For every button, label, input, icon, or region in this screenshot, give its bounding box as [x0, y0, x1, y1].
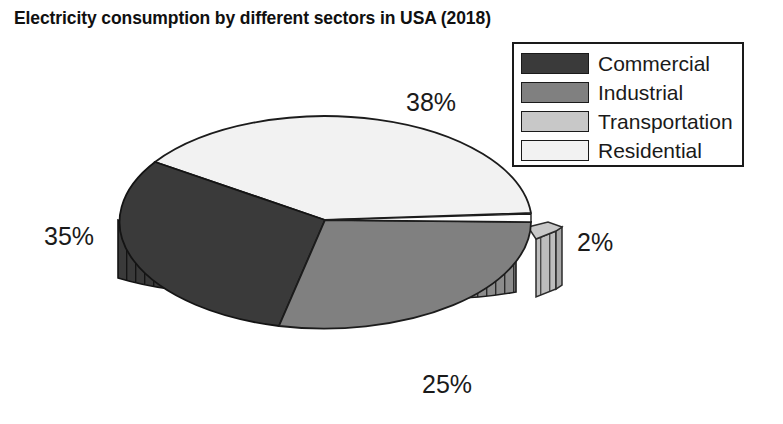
- legend-item-residential: Residential: [521, 136, 742, 165]
- value-label-transportation: 2%: [577, 228, 613, 257]
- legend-label-residential: Residential: [598, 140, 702, 161]
- slice-endcap-transportation: [556, 227, 562, 289]
- legend-item-commercial: Commercial: [521, 49, 742, 78]
- legend-item-industrial: Industrial: [521, 78, 742, 107]
- legend-swatch-transportation: [521, 111, 589, 132]
- pie-3d-body: [118, 116, 562, 328]
- slice-side-transportation: [536, 231, 556, 297]
- legend-swatch-commercial: [521, 53, 589, 74]
- legend-label-transportation: Transportation: [598, 111, 733, 132]
- legend: Commercial Industrial Transportation Res…: [512, 42, 744, 167]
- slice-transportation-exploded: [528, 222, 562, 297]
- value-label-industrial: 25%: [422, 370, 472, 399]
- legend-item-transportation: Transportation: [521, 107, 742, 136]
- value-label-commercial: 35%: [44, 222, 94, 251]
- legend-label-industrial: Industrial: [598, 82, 683, 103]
- legend-swatch-industrial: [521, 82, 589, 103]
- legend-swatch-residential: [521, 140, 589, 161]
- value-label-residential: 38%: [406, 88, 456, 117]
- chart-root: Electricity consumption by different sec…: [0, 0, 783, 424]
- legend-label-commercial: Commercial: [598, 53, 710, 74]
